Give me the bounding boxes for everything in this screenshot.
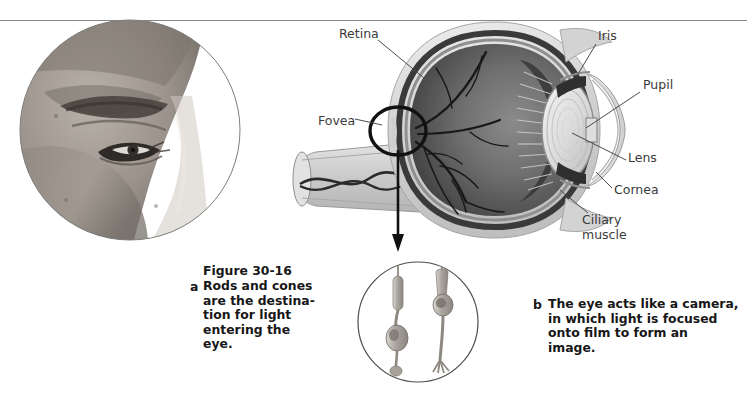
caption-a-marker: a bbox=[190, 279, 198, 294]
label-pupil: Pupil bbox=[643, 77, 673, 92]
rods-and-cones-inset bbox=[358, 262, 478, 382]
profile-face-photograph bbox=[20, 20, 240, 240]
figure-number: Figure 30-16 bbox=[203, 263, 292, 278]
caption-a-text: Rods and cones are the destina- tion for… bbox=[203, 279, 315, 352]
label-lens: Lens bbox=[628, 150, 657, 165]
label-cornea: Cornea bbox=[614, 182, 659, 197]
figure-canvas: Retina Fovea Iris Pupil Lens Cornea Cili… bbox=[0, 0, 747, 407]
label-ciliary-muscle: Ciliary muscle bbox=[582, 212, 627, 242]
label-fovea: Fovea bbox=[318, 113, 355, 128]
caption-b-text: The eye acts like a camera, in which lig… bbox=[548, 297, 739, 355]
caption-b-marker: b bbox=[533, 297, 542, 312]
label-iris: Iris bbox=[598, 28, 617, 43]
label-retina: Retina bbox=[339, 26, 379, 41]
